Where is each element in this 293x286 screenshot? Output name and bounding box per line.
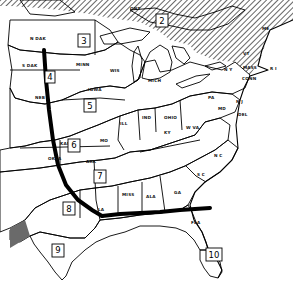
- state-label: MISS: [122, 192, 134, 197]
- zone-10-label: 10: [206, 248, 222, 261]
- state-label: R I: [270, 66, 277, 71]
- state-label: MICH: [148, 78, 161, 83]
- zone-3-label: 3: [78, 34, 90, 47]
- state-label: ILL: [120, 121, 128, 126]
- svg-text:8: 8: [66, 204, 71, 214]
- state-label: N DAK: [30, 36, 46, 41]
- zone-8-label: 8: [63, 202, 75, 215]
- state-label: KY: [164, 130, 171, 135]
- state-label: WIS: [110, 68, 120, 73]
- svg-text:5: 5: [87, 101, 92, 111]
- svg-text:4: 4: [47, 72, 52, 82]
- zone-map-svg: N DAK ONT S DAK MINN WIS NEB IOWA MICH I…: [0, 0, 293, 286]
- state-label: CONN: [242, 76, 257, 81]
- state-label: MD: [218, 106, 226, 111]
- state-label: S C: [197, 172, 205, 177]
- svg-text:2: 2: [159, 16, 164, 26]
- state-label: IOWA: [88, 87, 102, 92]
- state-label: TEXAS: [50, 221, 66, 226]
- state-label: MINN: [76, 62, 90, 67]
- state-label: FLA: [191, 220, 201, 225]
- state-label: LA: [98, 207, 105, 212]
- zone-4-label: 4: [45, 71, 55, 83]
- svg-text:10: 10: [209, 250, 220, 260]
- state-label: OKLA: [48, 156, 62, 161]
- michigan-region: [142, 45, 172, 80]
- state-label: GA: [174, 190, 182, 195]
- zone-6-region: [0, 92, 240, 172]
- state-label: N J: [236, 99, 243, 104]
- zone-2-label: 2: [156, 14, 168, 27]
- svg-text:7: 7: [97, 171, 102, 181]
- zone-5-label: 5: [84, 99, 96, 112]
- state-label: ARK: [86, 159, 97, 164]
- zone-8-dark-edge: [10, 220, 30, 248]
- zone-9-label: 9: [52, 244, 64, 257]
- state-label: PA: [208, 95, 215, 100]
- state-label: TENN: [142, 158, 156, 163]
- zone-7-label: 7: [94, 170, 106, 183]
- svg-text:6: 6: [71, 140, 76, 150]
- state-label: N Y: [224, 67, 233, 72]
- state-label: MO: [100, 138, 108, 143]
- svg-text:9: 9: [55, 245, 60, 255]
- state-label: ONT: [130, 6, 141, 11]
- state-label: NEB: [35, 95, 45, 100]
- state-label: OHIO: [164, 115, 177, 120]
- state-label: S DAK: [22, 63, 38, 68]
- zone-3-region: [8, 20, 118, 55]
- state-label: VA: [211, 130, 218, 135]
- state-label: N C: [214, 153, 223, 158]
- state-label: DEL: [238, 112, 248, 117]
- state-label: ALA: [146, 194, 156, 199]
- zone-4-region: [8, 42, 145, 104]
- state-label: ME: [262, 26, 269, 31]
- state-label: MASS: [243, 65, 257, 70]
- state-label: IND: [142, 115, 151, 120]
- zone-map: N DAK ONT S DAK MINN WIS NEB IOWA MICH I…: [0, 0, 293, 286]
- state-label: VT: [243, 51, 250, 56]
- state-label: W VA: [186, 125, 200, 130]
- zone-9-region: [30, 205, 208, 280]
- svg-text:3: 3: [81, 36, 86, 46]
- zone-8-region: [10, 140, 238, 242]
- zone-6-label: 6: [68, 139, 80, 152]
